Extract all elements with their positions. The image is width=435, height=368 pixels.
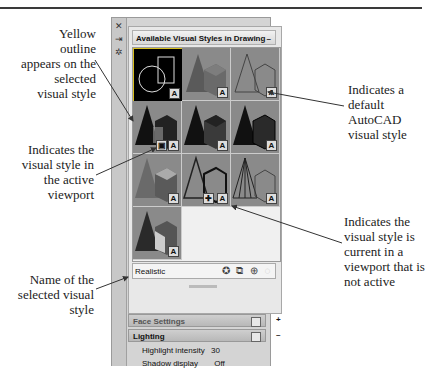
callout-leader-lines [0,0,435,365]
